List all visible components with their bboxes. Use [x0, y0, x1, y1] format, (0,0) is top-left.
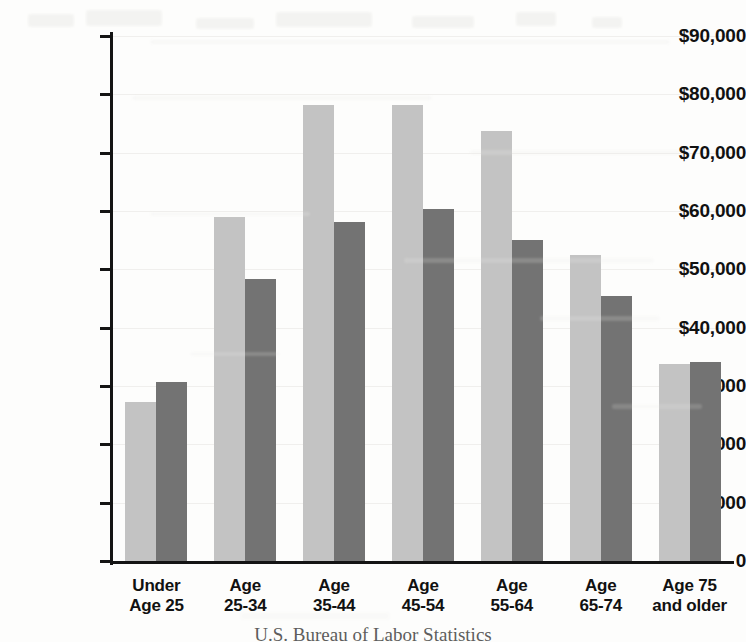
- bar: [570, 255, 601, 561]
- bar: [392, 105, 423, 561]
- y-axis-tick: [100, 385, 112, 388]
- category-label-line: Age: [201, 576, 290, 596]
- bar: [214, 217, 245, 561]
- x-axis-category-label: Age45-54: [379, 576, 468, 616]
- y-axis-tick: [100, 327, 112, 330]
- category-label-line: 35-44: [290, 596, 379, 616]
- x-axis-category-label: Age25-34: [201, 576, 290, 616]
- bar-group: [112, 36, 201, 561]
- bar-group: [290, 36, 379, 561]
- category-label-line: and older: [645, 596, 734, 616]
- plot-area: [112, 36, 734, 561]
- x-axis-category-label: Age55-64: [467, 576, 556, 616]
- x-axis-category-label: UnderAge 25: [112, 576, 201, 616]
- x-axis-category-label: Age 75and older: [645, 576, 734, 616]
- category-label-line: Age: [467, 576, 556, 596]
- category-label-line: Under: [112, 576, 201, 596]
- bar: [423, 209, 454, 561]
- bar-group: [556, 36, 645, 561]
- bar: [481, 131, 512, 562]
- bar: [659, 364, 690, 561]
- category-label-line: 25-34: [201, 596, 290, 616]
- bar: [156, 382, 187, 561]
- y-axis-tick: [100, 93, 112, 96]
- bar: [690, 362, 721, 562]
- x-axis-category-label: Age65-74: [556, 576, 645, 616]
- earnings-by-age-bar-chart: $90,000$80,000$70,000$60,000$50,000$40,0…: [0, 0, 746, 642]
- bar-group: [201, 36, 290, 561]
- bar-group: [379, 36, 468, 561]
- source-caption: U.S. Bureau of Labor Statistics: [0, 624, 746, 642]
- category-label-line: Age: [379, 576, 468, 596]
- category-label-line: 55-64: [467, 596, 556, 616]
- x-axis-category-label: Age35-44: [290, 576, 379, 616]
- bar: [334, 222, 365, 562]
- y-axis-tick: [100, 502, 112, 505]
- y-axis-tick: [100, 210, 112, 213]
- category-label-line: 65-74: [556, 596, 645, 616]
- category-label-line: 45-54: [379, 596, 468, 616]
- y-axis-tick: [100, 560, 112, 563]
- category-label-line: Age: [556, 576, 645, 596]
- x-axis-line: [110, 561, 734, 564]
- bar: [125, 402, 156, 561]
- bar: [245, 279, 276, 561]
- bar: [601, 296, 632, 561]
- bar-group: [467, 36, 556, 561]
- y-axis-tick: [100, 152, 112, 155]
- category-label-line: Age 75: [645, 576, 734, 596]
- bar-group: [645, 36, 734, 561]
- y-axis-tick: [100, 268, 112, 271]
- bar: [512, 240, 543, 561]
- bar: [303, 105, 334, 561]
- category-label-line: Age 25: [112, 596, 201, 616]
- y-axis-tick: [100, 443, 112, 446]
- y-axis-tick: [100, 35, 112, 38]
- category-label-line: Age: [290, 576, 379, 596]
